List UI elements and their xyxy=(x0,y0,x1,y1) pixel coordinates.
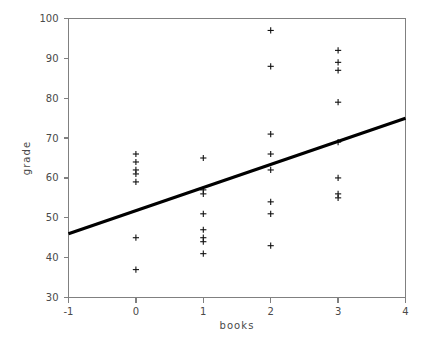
data-point-plus-icon xyxy=(335,175,341,181)
data-point-plus-icon xyxy=(200,239,206,245)
y-tick-label: 30 xyxy=(46,292,59,303)
x-tick-label: -1 xyxy=(64,306,74,317)
data-point-plus-icon xyxy=(335,47,341,53)
x-tick-label: 4 xyxy=(402,306,408,317)
data-point-plus-icon xyxy=(133,235,139,241)
regression-line-layer xyxy=(69,118,406,234)
y-tick-label: 60 xyxy=(46,172,59,183)
data-point-plus-icon xyxy=(133,267,139,273)
data-point-plus-icon xyxy=(133,179,139,185)
x-tick-label: 3 xyxy=(335,306,341,317)
data-point-plus-icon xyxy=(268,167,274,173)
chart-canvas: 30405060708090100 -101234 grade books xyxy=(0,0,429,351)
regression-line xyxy=(69,118,406,234)
data-point-plus-icon xyxy=(268,243,274,249)
y-tick-label: 90 xyxy=(46,53,59,64)
data-point-plus-icon xyxy=(335,99,341,105)
y-tick-label: 70 xyxy=(46,133,59,144)
data-point-plus-icon xyxy=(200,211,206,217)
data-point-plus-icon xyxy=(335,195,341,201)
data-point-plus-icon xyxy=(268,131,274,137)
x-axis-ticks: -101234 xyxy=(64,298,409,317)
y-axis-ticks: 30405060708090100 xyxy=(39,13,68,303)
data-point-plus-icon xyxy=(200,251,206,257)
x-axis-title: books xyxy=(219,320,254,331)
data-point-plus-icon xyxy=(200,155,206,161)
data-point-plus-icon xyxy=(268,151,274,157)
data-point-plus-icon xyxy=(268,27,274,33)
x-tick-label: 2 xyxy=(268,306,274,317)
data-point-plus-icon xyxy=(335,67,341,73)
data-point-plus-icon xyxy=(268,211,274,217)
x-tick-label: 1 xyxy=(200,306,206,317)
data-point-plus-icon xyxy=(200,191,206,197)
plot-frame xyxy=(69,19,406,298)
data-point-plus-icon xyxy=(335,59,341,65)
data-point-plus-icon xyxy=(268,63,274,69)
y-tick-label: 50 xyxy=(46,212,59,223)
scatter-plot-figure: 30405060708090100 -101234 grade books xyxy=(0,0,429,351)
data-point-plus-icon xyxy=(133,151,139,157)
x-tick-label: 0 xyxy=(133,306,139,317)
data-point-plus-icon xyxy=(133,171,139,177)
data-point-plus-icon xyxy=(200,227,206,233)
y-axis-title: grade xyxy=(21,141,32,176)
y-tick-label: 100 xyxy=(39,13,58,24)
y-tick-label: 40 xyxy=(46,252,59,263)
data-point-plus-icon xyxy=(268,199,274,205)
data-point-plus-icon xyxy=(133,159,139,165)
y-tick-label: 80 xyxy=(46,93,59,104)
